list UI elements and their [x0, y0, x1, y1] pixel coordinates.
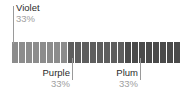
bar-segment [33, 42, 39, 63]
annotation-purple-percent: 33% [34, 79, 70, 89]
bar-segment [40, 42, 46, 63]
chart-container: Violet 33% Purple 33% Plum 33% [0, 0, 193, 93]
bar-segment [132, 42, 138, 63]
bar-segment [75, 42, 81, 63]
bar-segment [160, 42, 166, 63]
bar-segment [47, 42, 53, 63]
bar-segment [167, 42, 173, 63]
bar-segment [174, 42, 180, 63]
leader-line-plum [140, 58, 141, 80]
bar-segment [146, 42, 152, 63]
annotation-violet: Violet 33% [16, 3, 40, 24]
bar-segment [125, 42, 131, 63]
bar-segment [111, 42, 117, 63]
segmented-bar [12, 42, 180, 63]
annotation-violet-name: Violet [16, 3, 40, 13]
leader-line-purple [72, 58, 73, 80]
bar-segment [90, 42, 96, 63]
leader-line-violet [13, 6, 14, 44]
annotation-purple: Purple 33% [34, 68, 70, 89]
bar-segment [118, 42, 124, 63]
bar-segment [19, 42, 25, 63]
annotation-purple-name: Purple [34, 68, 70, 78]
annotation-plum: Plum 33% [104, 68, 138, 89]
bar-segment [153, 42, 159, 63]
bar-segment [12, 42, 18, 63]
bar-segment [82, 42, 88, 63]
bar-segment [26, 42, 32, 63]
bar-segment [104, 42, 110, 63]
annotation-plum-name: Plum [104, 68, 138, 78]
annotation-plum-percent: 33% [104, 79, 138, 89]
bar-segment [54, 42, 60, 63]
bar-segment [97, 42, 103, 63]
bar-segment [61, 42, 67, 63]
annotation-violet-percent: 33% [16, 14, 40, 24]
